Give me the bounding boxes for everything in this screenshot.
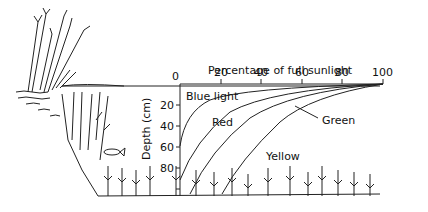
fish-icon	[104, 149, 120, 155]
svg-text:20: 20	[214, 66, 228, 79]
reeds-illustration	[28, 8, 90, 92]
svg-text:20: 20	[160, 99, 174, 112]
green-label: Green	[322, 114, 355, 127]
svg-text:80: 80	[160, 162, 174, 175]
yellow-label: Yellow	[265, 150, 300, 163]
blue-light-label: Blue light	[186, 90, 239, 103]
svg-text:40: 40	[160, 120, 174, 133]
bottom-weeds	[104, 166, 374, 196]
svg-text:60: 60	[295, 66, 309, 79]
svg-text:100: 100	[372, 66, 393, 79]
red-label: Red	[212, 116, 233, 129]
svg-text:60: 60	[160, 141, 174, 154]
yellow-curve	[222, 84, 383, 194]
svg-text:40: 40	[254, 66, 268, 79]
svg-text:80: 80	[335, 66, 349, 79]
x-axis-title: Percentage of full sunlight	[208, 64, 353, 77]
y-axis-title: Depth (cm)	[140, 98, 153, 160]
svg-text:0: 0	[172, 70, 179, 83]
light-penetration-diagram: Percentage of full sunlight 0 20 40 60 8…	[0, 0, 428, 212]
